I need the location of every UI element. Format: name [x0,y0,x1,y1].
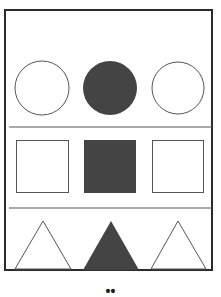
square-outline-left [17,141,69,193]
circle-outline-right [152,62,204,114]
triangle-outline-left [15,221,71,269]
triangle-filled-center [83,221,139,270]
square-filled-center [84,140,136,193]
footer-marker: •• [0,284,221,297]
triangle-outline-right [151,221,206,269]
circle-filled-center [83,61,137,115]
square-outline-right [153,141,204,193]
circle-outline-left [15,61,69,115]
